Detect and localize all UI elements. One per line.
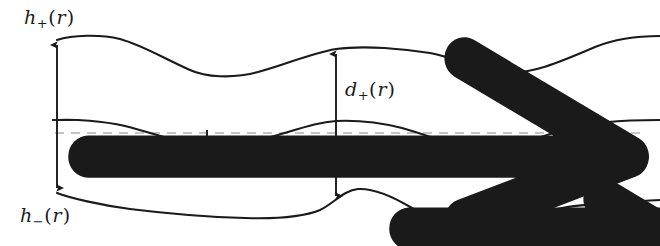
label-h-plus-vector-r: r (56, 8, 67, 27)
label-d-plus-close-paren: ) (388, 78, 395, 100)
upper-leaflet-curve (57, 36, 660, 77)
lower-leaflet-curve (57, 189, 660, 227)
label-h-plus-vector-r-glyph: r (57, 6, 66, 28)
label-h-plus-close-paren: ) (67, 6, 74, 28)
label-d-plus-open-paren: ( (369, 78, 376, 100)
label-h-minus-vector-r-glyph: r (53, 204, 62, 226)
label-d-minus-close-paren: ) (388, 148, 395, 170)
label-d-plus-subscript: + (357, 88, 369, 103)
label-s: s(r) (178, 149, 214, 168)
label-s-vector-r: r (195, 149, 206, 168)
label-h-minus-open-paren: ( (44, 204, 51, 226)
label-s-close-paren: ) (206, 147, 213, 169)
label-d-plus-base: d (345, 78, 357, 100)
label-d-plus-vector-r: r (377, 80, 388, 99)
label-d-minus-open-paren: ( (369, 148, 376, 170)
label-h-minus-subscript: − (32, 214, 44, 229)
label-s-open-paren: ( (188, 147, 195, 169)
membrane-schematic-figure: h+(r) h−(r) d+(r) d−(r) s(r) (0, 0, 660, 246)
label-h-plus-base: h (24, 6, 36, 28)
label-h-minus-base: h (20, 204, 32, 226)
label-d-minus-base: d (345, 148, 357, 170)
label-d-minus-subscript: − (357, 158, 369, 173)
label-h-minus-close-paren: ) (63, 204, 70, 226)
label-d-plus: d+(r) (345, 80, 395, 102)
label-d-minus-vector-r-glyph: r (378, 148, 387, 170)
label-h-plus-subscript: + (36, 16, 48, 31)
label-h-plus: h+(r) (24, 8, 74, 30)
label-d-minus-vector-r: r (377, 150, 388, 169)
label-d-minus: d−(r) (345, 150, 395, 172)
label-d-plus-vector-r-glyph: r (378, 78, 387, 100)
label-s-base: s (178, 147, 188, 169)
label-h-minus: h−(r) (20, 206, 70, 228)
diagram-canvas (0, 0, 660, 246)
label-h-plus-open-paren: ( (48, 6, 55, 28)
label-h-minus-vector-r: r (52, 206, 63, 225)
label-s-vector-r-glyph: r (196, 147, 205, 169)
